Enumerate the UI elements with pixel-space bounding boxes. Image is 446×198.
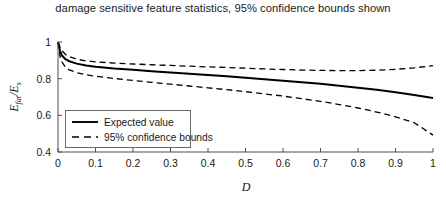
y-tick-label: 0.6	[36, 109, 51, 121]
x-tick-label: 1	[430, 157, 436, 169]
y-axis-label: Efat/Es	[7, 82, 23, 113]
x-tick-label: 0.2	[126, 157, 141, 169]
y-axis-label-text: Efat/Es	[7, 82, 23, 113]
x-tick-label: 0.9	[388, 157, 403, 169]
series-line	[58, 42, 433, 98]
x-tick-label: 0.3	[163, 157, 178, 169]
y-label-denominator-sub: s	[14, 82, 23, 85]
x-tick-label: 0.4	[201, 157, 216, 169]
x-tick-label: 0	[55, 157, 61, 169]
x-tick-label: 0.1	[88, 157, 103, 169]
y-tick-label: 0.8	[36, 73, 51, 85]
series-line	[58, 42, 433, 71]
x-axis-ticks: 00.10.20.30.40.50.60.70.80.91	[55, 148, 436, 169]
x-tick-label: 0.8	[351, 157, 366, 169]
y-tick-label: 0.4	[36, 146, 51, 158]
x-tick-label: 0.7	[313, 157, 328, 169]
x-axis-label: D	[241, 180, 251, 194]
x-tick-label: 0.6	[276, 157, 291, 169]
x-tick-label: 0.5	[238, 157, 253, 169]
plot-area: 00.10.20.30.40.50.60.70.80.91 0.40.60.81…	[0, 0, 446, 198]
y-tick-label: 1	[45, 36, 51, 48]
chart-legend[interactable]: Expected value 95% confidence bounds	[66, 111, 213, 148]
chart-figure: damage sensitive feature statistics, 95%…	[0, 0, 446, 198]
legend-label-expected-value: Expected value	[104, 117, 174, 128]
x-axis-label-text: D	[241, 180, 251, 194]
legend-label-confidence-bounds: 95% confidence bounds	[104, 132, 213, 143]
